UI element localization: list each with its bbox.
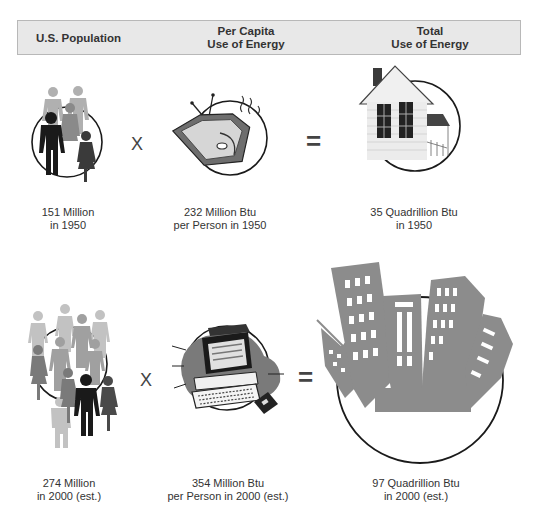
large-crowd-icon xyxy=(20,304,120,444)
per-capita-caption-1950: 232 Million Btuper Person in 1950 xyxy=(140,206,300,232)
header-per-capita: Per CapitaUse of Energy xyxy=(186,25,306,51)
total-caption-2000: 97 Quadrillion Btuin 2000 (est.) xyxy=(336,477,496,503)
per-capita-caption-2000: 354 Million Btuper Person in 2000 (est.) xyxy=(148,477,308,503)
people-group-icon xyxy=(28,85,108,185)
header-total-energy: TotalUse of Energy xyxy=(370,25,490,51)
total-caption-1950: 35 Quadrillion Btuin 1950 xyxy=(334,206,494,232)
header-bar: U.S. Population Per CapitaUse of Energy … xyxy=(17,20,521,55)
multiply-operator-1950: X xyxy=(131,134,143,155)
television-icon xyxy=(170,78,270,178)
header-us-population: U.S. Population xyxy=(36,32,121,45)
city-skyline-icon xyxy=(315,258,525,468)
computer-icon xyxy=(172,316,292,436)
house-icon xyxy=(355,64,475,184)
equals-operator-2000: = xyxy=(298,362,313,393)
multiply-operator-2000: X xyxy=(140,370,152,391)
population-caption-1950: 151 Millionin 1950 xyxy=(0,206,148,232)
population-caption-2000: 274 Millionin 2000 (est.) xyxy=(0,477,149,503)
equals-operator-1950: = xyxy=(306,126,321,157)
